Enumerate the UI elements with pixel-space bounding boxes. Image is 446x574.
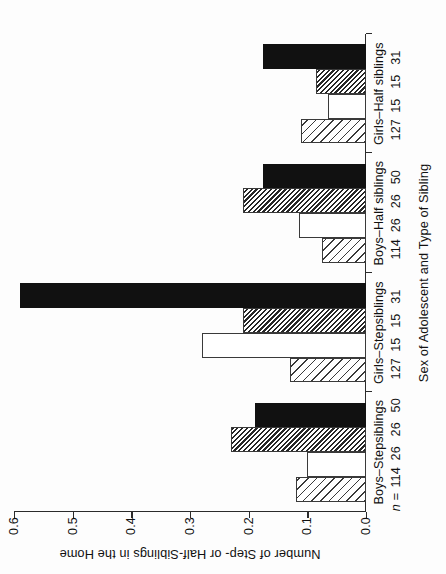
n-prefix: n = [389, 489, 403, 511]
category-name: Girls–Half siblings [372, 42, 386, 145]
bar-boys-stepsiblings-dual-father [231, 427, 366, 452]
category-sample-sizes: 114262650 [389, 161, 403, 266]
chart-page: 0.00.10.20.30.40.50.6 Boys–Stepsiblingsn… [0, 0, 446, 574]
category-separator-tick [366, 33, 372, 34]
bar-girls-stepsiblings-sole-mother [290, 358, 366, 383]
y-axis-title: Number of Step- or Half-Siblings in the … [14, 546, 366, 562]
value-tick-label: 0.2 [242, 517, 256, 535]
category-name: Boys–Stepsiblings [372, 393, 386, 511]
category-sample-sizes: 127151531 [389, 281, 403, 384]
category-name: Girls–Stepsiblings [372, 281, 386, 384]
category-separator-tick [366, 272, 372, 273]
bar-boys-stepsiblings-sole-father [255, 403, 366, 428]
category-name: Boys–Half siblings [372, 161, 386, 266]
category-separator-tick [366, 152, 372, 153]
bar-boys-half-siblings-dual-father [243, 188, 366, 213]
sample-size-value: 31 [389, 46, 403, 70]
value-tick-label: 0.4 [124, 517, 138, 535]
bar-chart-figure: 0.00.10.20.30.40.50.6 Boys–Stepsiblingsn… [0, 0, 446, 574]
category-sample-sizes: n = 114262650 [389, 393, 403, 511]
sample-size-value: 50 [389, 393, 403, 417]
sample-size-value: 114 [389, 237, 403, 261]
bar-boys-stepsiblings-dual-mother [307, 452, 366, 477]
bar-girls-stepsiblings-dual-father [243, 308, 366, 333]
bar-girls-half-siblings-dual-mother [328, 94, 366, 119]
plot-area: 0.00.10.20.30.40.50.6 Boys–Stepsiblingsn… [14, 34, 366, 512]
sample-size-value: 114 [389, 465, 403, 489]
category-separator-tick [366, 391, 372, 392]
bar-girls-stepsiblings-sole-father [20, 283, 366, 308]
x-axis-title: Sex of Adolescent and Type of Sibling [416, 34, 431, 512]
bar-boys-half-siblings-sole-father [263, 164, 366, 189]
bar-boys-stepsiblings-sole-mother [296, 477, 366, 502]
category-label-group: Boys–Half siblings114262650 [366, 161, 403, 266]
value-tick-label: 0.6 [7, 517, 21, 535]
bar-girls-stepsiblings-dual-mother [202, 333, 366, 358]
value-tick-label: 0.5 [66, 517, 80, 535]
rotated-figure-wrapper: 0.00.10.20.30.40.50.6 Boys–Stepsiblingsn… [0, 0, 446, 574]
sample-size-value: 127 [389, 118, 403, 142]
value-tick-label: 0.3 [183, 517, 197, 535]
bar-girls-half-siblings-dual-father [316, 69, 366, 94]
sample-size-value: 31 [389, 285, 403, 309]
sample-size-value: 15 [389, 70, 403, 94]
sample-size-value: 26 [389, 417, 403, 441]
category-label-group: Girls–Half siblings127151531 [366, 42, 403, 145]
category-sample-sizes: 127151531 [389, 42, 403, 145]
sample-size-value: 26 [389, 213, 403, 237]
sample-size-value: 15 [389, 94, 403, 118]
sample-size-value: 15 [389, 309, 403, 333]
sample-size-value: 127 [389, 357, 403, 381]
sample-size-value: 26 [389, 441, 403, 465]
value-tick-label: 0.1 [300, 517, 314, 535]
sample-size-value: 26 [389, 189, 403, 213]
category-label-group: Girls–Stepsiblings127151531 [366, 281, 403, 384]
value-tick-label: 0.0 [359, 517, 373, 535]
bar-boys-half-siblings-dual-mother [299, 213, 366, 238]
bar-girls-half-siblings-sole-father [263, 44, 366, 69]
sample-size-value: 15 [389, 333, 403, 357]
bar-girls-half-siblings-sole-mother [301, 119, 366, 144]
category-label-group: Boys–Stepsiblingsn = 114262650 [366, 393, 403, 511]
bar-boys-half-siblings-sole-mother [322, 238, 366, 263]
sample-size-value: 50 [389, 165, 403, 189]
